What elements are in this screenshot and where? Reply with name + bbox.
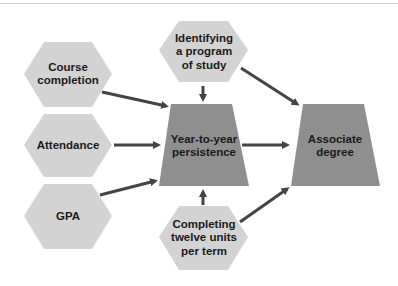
label-persistence: Year-to-year persistence xyxy=(166,130,242,162)
label-course-completion: Course completion xyxy=(38,58,98,90)
label-associate-degree: Associate degree xyxy=(300,130,370,162)
arrow-course-to-persistence xyxy=(102,92,166,106)
arrow-units-to-degree xyxy=(240,189,287,222)
arrow-identifying-to-degree xyxy=(241,68,297,104)
label-attendance: Attendance xyxy=(30,138,106,154)
label-completing-units: Completing twelve units per term xyxy=(168,216,240,260)
label-identifying-program: Identifying a program of study xyxy=(172,30,236,74)
arrow-gpa-to-persistence xyxy=(100,181,155,195)
label-gpa: GPA xyxy=(38,209,98,225)
